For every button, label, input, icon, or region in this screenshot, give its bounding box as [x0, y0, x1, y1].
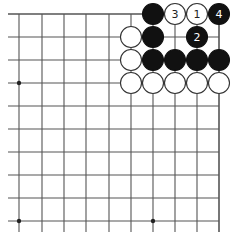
black-stone: [143, 4, 164, 25]
white-stone: [165, 73, 186, 94]
black-stone: [209, 50, 230, 71]
black-stone: [143, 50, 164, 71]
black-stone: 2: [187, 27, 208, 48]
white-stone: 1: [187, 4, 208, 25]
white-stone: [121, 73, 142, 94]
go-board: 3142: [0, 0, 235, 244]
white-stone: [209, 73, 230, 94]
move-number-label: 1: [194, 8, 201, 21]
move-number-label: 4: [216, 8, 223, 21]
star-point: [151, 219, 155, 223]
black-stone: 4: [209, 4, 230, 25]
white-stone: [121, 27, 142, 48]
black-stone: [165, 50, 186, 71]
move-number-label: 2: [194, 31, 201, 44]
white-stone: [121, 50, 142, 71]
white-stone: 3: [165, 4, 186, 25]
move-number-label: 3: [172, 8, 179, 21]
white-stone: [187, 73, 208, 94]
black-stone: [143, 27, 164, 48]
grid-lines: [8, 14, 219, 232]
star-point: [17, 219, 21, 223]
star-point: [17, 81, 21, 85]
white-stone: [143, 73, 164, 94]
black-stone: [187, 50, 208, 71]
